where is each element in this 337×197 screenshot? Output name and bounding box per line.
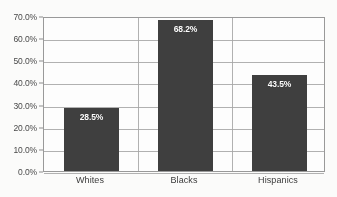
- x-axis-category-label: Blacks: [137, 175, 231, 185]
- y-axis-tick-label: 10.0%: [13, 145, 37, 155]
- bar-value-label: 28.5%: [64, 112, 119, 122]
- y-axis-tick-label: 0.0%: [18, 167, 37, 177]
- bar-value-label: 68.2%: [158, 24, 213, 34]
- x-axis-category-label: Whites: [43, 175, 137, 185]
- category-separator-line: [138, 18, 139, 171]
- bar: 68.2%: [158, 20, 213, 171]
- y-axis-tick-label: 20.0%: [13, 123, 37, 133]
- y-axis-tick-label: 50.0%: [13, 56, 37, 66]
- cropped-title-remnant: [150, 0, 330, 5]
- bar-value-label: 43.5%: [252, 79, 307, 89]
- bar-chart-figure: 0.0%10.0%20.0%30.0%40.0%50.0%60.0%70.0% …: [0, 0, 337, 197]
- y-axis-tick-label: 70.0%: [13, 12, 37, 22]
- gridline: [44, 173, 324, 174]
- bar: 28.5%: [64, 108, 119, 171]
- plot-area: 28.5%68.2%43.5%: [43, 17, 325, 172]
- bar: 43.5%: [252, 75, 307, 171]
- x-axis: WhitesBlacksHispanics: [43, 175, 325, 197]
- y-axis-tick-label: 40.0%: [13, 78, 37, 88]
- category-separator-line: [232, 18, 233, 171]
- y-axis: 0.0%10.0%20.0%30.0%40.0%50.0%60.0%70.0%: [0, 0, 43, 197]
- x-axis-category-label: Hispanics: [231, 175, 325, 185]
- y-axis-tick-label: 60.0%: [13, 34, 37, 44]
- y-axis-tick-label: 30.0%: [13, 101, 37, 111]
